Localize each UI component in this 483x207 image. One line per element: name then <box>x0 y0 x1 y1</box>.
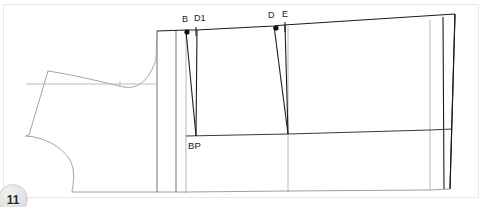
main-block-outline <box>157 14 455 189</box>
point-markers[interactable] <box>184 22 285 36</box>
point-marker-d[interactable] <box>273 25 278 30</box>
pattern-draft-app: B D1 D E BP 11 <box>0 0 483 207</box>
point-label-bp: BP <box>188 141 201 150</box>
hem-line <box>72 189 450 192</box>
pattern-drawing[interactable] <box>0 0 483 207</box>
vertical-guide-lines <box>157 20 430 193</box>
point-label-b: B <box>182 15 188 24</box>
dart-right <box>274 25 288 134</box>
point-label-e: E <box>282 10 288 19</box>
centre-block-seam <box>157 31 176 192</box>
right-side-seam <box>443 14 455 189</box>
waist-horizontal-line <box>186 129 452 136</box>
step-number-text: 11 <box>7 193 20 207</box>
left-panel-outline <box>26 31 157 192</box>
point-label-d1: D1 <box>194 14 206 23</box>
point-marker-b[interactable] <box>184 29 189 34</box>
dart-left <box>186 30 197 136</box>
point-label-d: D <box>268 11 275 20</box>
